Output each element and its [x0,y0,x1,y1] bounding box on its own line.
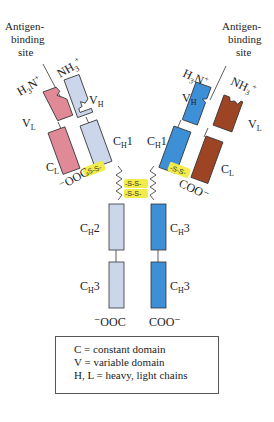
svg-text:VH: VH [89,93,104,109]
left-CH2-domain [109,204,124,250]
left-heavy-fc: CH2 CH3 ⁻OOC [80,204,126,329]
svg-text:-S-S-: -S-S- [125,190,142,197]
svg-text:binding: binding [11,33,45,45]
svg-text:CH3: CH3 [80,279,100,295]
svg-text:site: site [18,46,33,58]
svg-text:binding: binding [228,33,262,45]
svg-text:CL: CL [46,160,59,176]
svg-text:CH3: CH3 [170,221,190,237]
legend-line-constant: C = constant domain [74,343,218,356]
svg-text:VL: VL [22,116,36,132]
disulfide-light-heavy: -S-S- -S-S- [82,161,191,179]
svg-text:VL: VL [248,117,262,133]
legend-line-chains: H, L = heavy, light chains [74,369,218,382]
svg-text:CL: CL [221,162,234,178]
svg-text:Antigen-: Antigen- [5,20,44,32]
svg-text:CH1: CH1 [147,134,167,150]
svg-text:site: site [236,46,251,58]
svg-text:Antigen-: Antigen- [222,20,261,32]
svg-text:CH1: CH1 [113,134,133,150]
right-VL-domain [213,95,243,132]
svg-text:H3N+: H3N+ [14,72,45,100]
svg-text:-S-S-: -S-S- [125,180,142,187]
legend-box: C = constant domain V = variable domain … [55,336,219,394]
right-CH2-domain [151,204,166,250]
svg-text:CH2: CH2 [80,221,100,237]
legend-line-variable: V = variable domain [74,356,218,369]
svg-text:⁻OOC: ⁻OOC [94,315,126,329]
svg-text:CH3: CH3 [170,279,190,295]
left-CH3-domain [109,262,124,308]
right-heavy-fc: CH3 CH3 COO⁻ [149,204,190,329]
hinge-region: -S-S- -S-S- [116,166,156,200]
svg-text:NH3+: NH3+ [228,73,259,100]
right-CL-domain [191,136,223,184]
antibody-diagram: Antigen- binding site Antigen- binding s… [0,0,274,422]
left-CH1-domain [80,120,112,168]
svg-text:COO⁻: COO⁻ [149,315,181,329]
right-CH3-domain [151,262,166,308]
